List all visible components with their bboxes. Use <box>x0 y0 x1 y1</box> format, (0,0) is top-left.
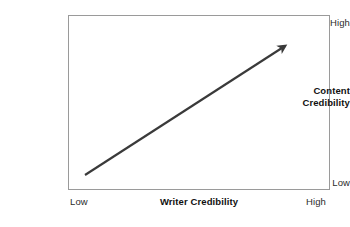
chart-figure: High Low Content Credibility Low High Wr… <box>0 0 350 227</box>
y-axis-tick-high: High <box>288 17 350 28</box>
y-axis-tick-low: Low <box>288 177 350 188</box>
y-axis-title-line-2: Credibility <box>288 97 350 109</box>
x-axis-title: Writer Credibility <box>68 196 330 207</box>
trend-line <box>85 46 285 175</box>
y-axis-title-line-1: Content <box>288 85 350 97</box>
y-axis-title: Content Credibility <box>288 85 350 109</box>
